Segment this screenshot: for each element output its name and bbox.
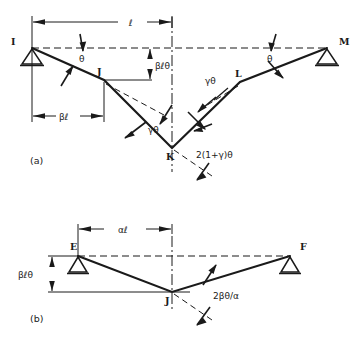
node-label-L: L xyxy=(235,68,242,79)
dimension-deflection-beta-l-theta-b: βℓθ xyxy=(18,257,55,291)
dim-arrow-al-left xyxy=(79,226,91,232)
dim-arrow-right xyxy=(159,19,171,25)
dim-arrow-al-right xyxy=(159,226,171,232)
node-label-K: K xyxy=(166,151,175,162)
dimension-label-alpha-l: αℓ xyxy=(118,225,128,235)
angle-label-two-beta-theta-over-alpha: 2βθ/α xyxy=(213,291,239,301)
panel-a: ℓ I J K L M θ xyxy=(11,16,350,181)
dimension-length-beta-l: βℓ xyxy=(32,50,104,122)
chord-dashed-below-J xyxy=(174,294,212,320)
engineering-diagram: ℓ I J K L M θ xyxy=(0,0,357,356)
angle-indicator-gamma-theta-right: γθ xyxy=(196,76,238,113)
panel-label-b: (b) xyxy=(30,313,43,324)
node-label-E: E xyxy=(70,241,77,252)
rotation-mark-theta-left xyxy=(80,34,87,52)
dimension-label-beta-l-theta-b: βℓθ xyxy=(18,270,33,280)
dimension-length-l: ℓ xyxy=(32,16,172,50)
angle-indicator-two-one-plus-gamma-theta: 2(1+γ)θ xyxy=(174,150,233,181)
panel-label-a: (a) xyxy=(30,155,43,166)
dimension-length-alpha-l: αℓ xyxy=(78,224,172,258)
rotation-arrow-theta-left xyxy=(80,42,87,52)
angle-indicator-two-beta-theta-over-alpha: 2βθ/α xyxy=(174,291,239,326)
node-label-F: F xyxy=(300,241,307,252)
rotation-mark-segment-JK xyxy=(124,122,146,139)
dim-arrow-down xyxy=(147,69,153,79)
deformed-member-EJF xyxy=(78,256,290,292)
dim-arrow-bl-right xyxy=(91,113,103,119)
rotation-arrow-segment-LM xyxy=(274,70,284,79)
angle-label-two-one-plus-gamma-theta: 2(1+γ)θ xyxy=(196,150,233,160)
deformed-member-IJKLM xyxy=(32,48,327,148)
dim-arrow-left xyxy=(33,19,45,25)
dim-arrow-b-down xyxy=(49,281,55,291)
angle-label-theta-left: θ xyxy=(79,54,85,64)
dim-arrow-bl-left xyxy=(33,113,45,119)
angle-label-gamma-theta-left: γθ xyxy=(148,125,159,135)
rotation-mark-theta-right xyxy=(268,34,276,52)
dim-arrow-b-up xyxy=(49,257,55,267)
node-label-J-b: J xyxy=(164,295,170,306)
dimension-deflection-beta-l-theta: βℓθ xyxy=(104,49,170,80)
rotation-mark-segment-JF xyxy=(203,264,217,285)
node-label-I: I xyxy=(11,36,16,47)
figure-container: ℓ I J K L M θ xyxy=(0,0,357,356)
rotation-arrow-segment-IJ xyxy=(65,65,73,75)
dimension-label-beta-l-theta: βℓθ xyxy=(155,61,170,71)
rotation-arrow-gamma-theta-left xyxy=(159,115,167,125)
dimension-label-length-l: ℓ xyxy=(128,18,133,28)
dimension-label-beta-l: βℓ xyxy=(59,112,68,122)
rotation-arrow-theta-right xyxy=(268,42,275,52)
rotation-arrow-gamma-theta-right xyxy=(197,103,207,112)
support-F xyxy=(279,257,301,274)
angle-label-gamma-theta-right: γθ xyxy=(205,76,216,86)
panel-b: αℓ E J F βℓθ xyxy=(18,224,307,326)
rotation-arrow-segment-JF xyxy=(208,264,216,274)
dim-arrow-up xyxy=(147,49,153,59)
rotation-mark-segment-IJ xyxy=(61,65,74,86)
node-label-J: J xyxy=(96,66,102,77)
node-label-M: M xyxy=(339,36,350,47)
